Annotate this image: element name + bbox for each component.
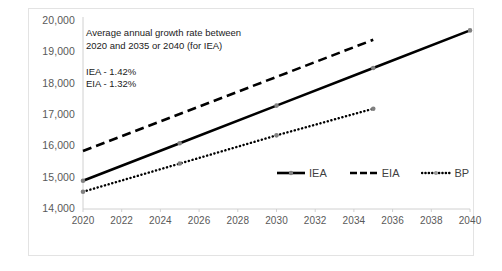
chart-container: Average annual growth rate between 2020 … [28,8,474,256]
data-point-iea-2040 [468,28,473,33]
x-axis-tick-label: 2028 [218,215,258,226]
y-axis-tick-label: 19,000 [29,45,75,57]
legend-swatch-dashed-icon [349,168,379,178]
data-point-bp-2020 [81,189,86,194]
data-point-iea-2020 [81,179,86,184]
x-axis-tick-label: 2020 [63,215,103,226]
legend-label-iea: IEA [309,167,327,179]
x-axis-tick-label: 2032 [295,215,335,226]
y-axis-tick-label: 14,000 [29,202,75,214]
y-axis-tick-label: 15,000 [29,171,75,183]
legend-item-eia[interactable]: EIA [349,167,400,179]
legend-label-bp: BP [454,167,469,179]
legend-item-bp[interactable]: BP [421,167,469,179]
x-axis-tick-label: 2022 [102,215,142,226]
y-axis-tick-label: 18,000 [29,77,75,89]
chart-legend: IEA EIA BP [276,167,469,179]
data-point-bp-2025 [177,161,182,166]
data-point-bp-2035 [371,106,376,111]
data-point-iea-2025 [177,141,182,146]
y-axis-tick-label: 16,000 [29,139,75,151]
series-line-bp [83,109,373,192]
legend-item-iea[interactable]: IEA [276,167,327,179]
x-axis-tick-label: 2026 [179,215,219,226]
legend-label-eia: EIA [382,167,400,179]
data-point-bp-2030 [274,133,279,138]
legend-swatch-solid-icon [276,168,306,178]
data-point-iea-2035 [371,66,376,71]
x-axis-tick-label: 2024 [140,215,180,226]
y-axis-tick-label: 20,000 [29,14,75,26]
legend-swatch-dotted-icon [421,168,451,178]
series-line-eia [83,40,373,151]
x-axis-tick-label: 2034 [334,215,374,226]
x-axis-tick-label: 2036 [373,215,413,226]
x-axis-tick-label: 2038 [411,215,451,226]
data-point-iea-2030 [274,103,279,108]
y-axis-tick-label: 17,000 [29,108,75,120]
x-axis-tick-label: 2040 [450,215,490,226]
x-axis-tick-label: 2030 [257,215,297,226]
